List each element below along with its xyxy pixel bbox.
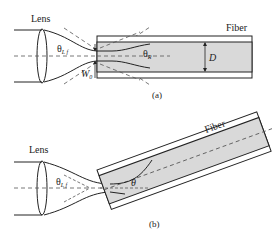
fiber-core-a (97, 42, 252, 72)
caption-b: (b) (149, 219, 160, 229)
panel-a: Lens Fiber θL f θR W0 D (a) (14, 13, 252, 100)
theta-label-b: θ (131, 177, 136, 188)
w0-label: W0 (81, 68, 92, 80)
theta-lf-label-b: θL f (56, 176, 69, 188)
fiber-coupling-diagram: Lens Fiber θL f θR W0 D (a) Lens Fiber θ… (0, 0, 272, 236)
lens-label-b: Lens (29, 144, 49, 155)
fiber-b (97, 108, 272, 209)
caption-a: (a) (152, 90, 162, 100)
d-label: D (208, 52, 217, 63)
theta-lf-label-a: θL f (57, 43, 70, 55)
fiber-label-a: Fiber (226, 22, 248, 33)
panel-b: Lens Fiber θL f θ (b) (14, 108, 272, 229)
lens-label-a: Lens (31, 13, 51, 24)
